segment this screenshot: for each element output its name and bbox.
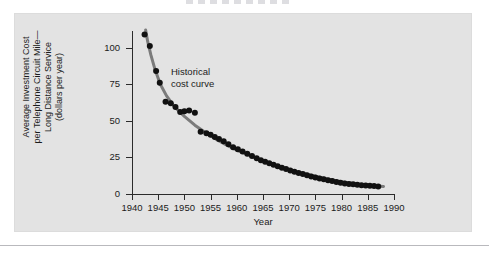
data-point xyxy=(163,99,169,105)
x-axis-tick xyxy=(237,194,238,200)
x-axis-tick xyxy=(184,194,185,200)
data-point xyxy=(375,183,381,189)
data-point xyxy=(198,129,204,135)
data-point xyxy=(172,104,178,110)
x-axis-tick xyxy=(263,194,264,200)
x-axis-tick xyxy=(211,194,212,200)
y-axis-line xyxy=(132,31,133,195)
x-axis-tick-label: 1990 xyxy=(374,202,414,213)
data-point xyxy=(192,110,198,116)
historical-cost-curve-annotation: Historical cost curve xyxy=(171,66,214,89)
data-point xyxy=(147,43,153,49)
data-point xyxy=(168,100,174,106)
cropped-caption-remnant xyxy=(186,0,290,4)
y-axis-tick-label: 75 xyxy=(80,78,120,89)
y-axis-tick xyxy=(126,48,132,49)
y-axis-tick-label: 0 xyxy=(80,188,120,199)
x-axis-tick xyxy=(342,194,343,200)
x-axis-title: Year xyxy=(132,216,394,227)
data-point xyxy=(153,68,159,74)
data-point xyxy=(186,108,192,114)
y-axis-tick xyxy=(126,157,132,158)
y-axis-title: Average Investment Cost per Telephone Ci… xyxy=(21,2,65,172)
figure-panel: 0255075100 19401945195019551960196519701… xyxy=(14,13,472,232)
x-axis-tick xyxy=(132,194,133,200)
x-axis-tick xyxy=(368,194,369,200)
data-point xyxy=(157,80,163,86)
data-point xyxy=(142,31,148,37)
y-axis-tick-label: 50 xyxy=(80,115,120,126)
plot-area: 0255075100 19401945195019551960196519701… xyxy=(14,13,472,232)
x-axis-tick xyxy=(158,194,159,200)
bottom-divider-rule xyxy=(0,245,489,246)
y-axis-tick-label: 25 xyxy=(80,151,120,162)
y-axis-tick xyxy=(126,84,132,85)
x-axis-tick xyxy=(394,194,395,200)
x-axis-tick xyxy=(315,194,316,200)
x-axis-tick xyxy=(289,194,290,200)
y-axis-tick-label: 100 xyxy=(80,42,120,53)
y-axis-tick xyxy=(126,121,132,122)
